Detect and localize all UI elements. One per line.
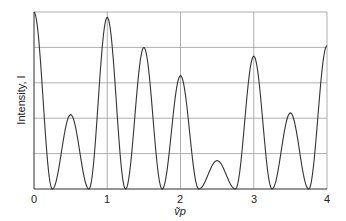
y-axis-label: Intensity, I [15, 75, 27, 124]
x-tick-1: 1 [104, 193, 110, 205]
x-tick-4: 4 [324, 193, 330, 205]
x-axis-label: ṽp [174, 205, 186, 217]
grid-lines [34, 12, 327, 189]
x-tick-2: 2 [177, 193, 183, 205]
x-tick-3: 3 [251, 193, 257, 205]
intensity-chart: 0 1 2 3 4 ṽp Intensity, I [0, 0, 346, 221]
x-tick-0: 0 [31, 193, 37, 205]
